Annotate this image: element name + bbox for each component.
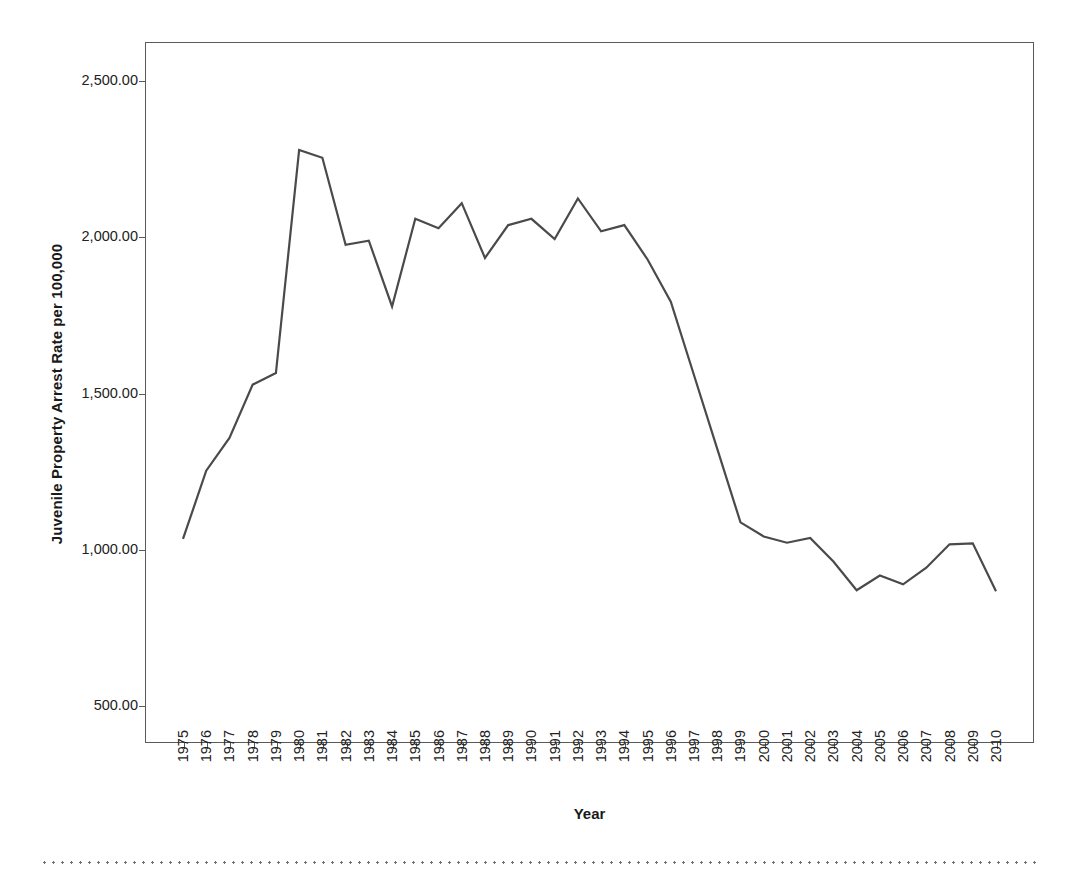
- x-axis-tick-label: 1986: [431, 730, 447, 790]
- y-axis-tick-label: 500.00: [38, 698, 138, 712]
- y-axis-tick-mark: [139, 81, 146, 82]
- x-axis-tick-label: 1997: [686, 730, 702, 790]
- x-axis-tick-label: 1984: [384, 730, 400, 790]
- x-axis-tick-label: 1975: [175, 730, 191, 790]
- x-axis-tick-label: 2000: [756, 730, 772, 790]
- x-axis-tick-label: 1980: [291, 730, 307, 790]
- x-axis-tick-label: 1977: [221, 730, 237, 790]
- x-axis-tick-label: 1981: [314, 730, 330, 790]
- x-axis-title: Year: [145, 805, 1034, 822]
- x-axis-tick-label: 2003: [825, 730, 841, 790]
- x-axis-tick-label-group: 1975197619771978197919801981198219831984…: [145, 743, 1034, 813]
- y-axis-tick-mark: [139, 237, 146, 238]
- plot-area: [145, 42, 1034, 743]
- bottom-dotted-rule: [40, 861, 1042, 864]
- y-axis-tick-label: 1,500.00: [38, 386, 138, 400]
- x-axis-tick-label: 1998: [709, 730, 725, 790]
- x-axis-tick-label: 2005: [872, 730, 888, 790]
- x-axis-tick-label: 2009: [965, 730, 981, 790]
- x-axis-tick-label: 1993: [593, 730, 609, 790]
- x-axis-tick-label: 1985: [407, 730, 423, 790]
- x-axis-tick-label: 1976: [198, 730, 214, 790]
- x-axis-tick-label: 2008: [942, 730, 958, 790]
- x-axis-tick-label: 1992: [570, 730, 586, 790]
- x-axis-tick-label: 1978: [245, 730, 261, 790]
- x-axis-tick-label: 1989: [500, 730, 516, 790]
- chart-figure: Juvenile Property Arrest Rate per 100,00…: [0, 0, 1086, 873]
- x-axis-tick-label: 2004: [849, 730, 865, 790]
- y-axis-tick-label: 2,000.00: [38, 229, 138, 243]
- x-axis-tick-label: 1996: [663, 730, 679, 790]
- x-axis-tick-label: 1982: [338, 730, 354, 790]
- y-axis-tick-mark: [139, 394, 146, 395]
- x-axis-tick-label: 2010: [988, 730, 1004, 790]
- x-axis-tick-label: 1999: [732, 730, 748, 790]
- x-axis-tick-label: 1990: [523, 730, 539, 790]
- x-axis-tick-label: 2007: [918, 730, 934, 790]
- x-axis-tick-label: 2006: [895, 730, 911, 790]
- y-axis-tick-label: 1,000.00: [38, 542, 138, 556]
- x-axis-tick-label: 1987: [454, 730, 470, 790]
- x-axis-tick-label: 2001: [779, 730, 795, 790]
- x-axis-tick-label: 1988: [477, 730, 493, 790]
- y-axis-tick-label: 2,500.00: [38, 73, 138, 87]
- x-axis-tick-label: 1983: [361, 730, 377, 790]
- x-axis-tick-label: 1994: [616, 730, 632, 790]
- y-axis-tick-mark: [139, 550, 146, 551]
- x-axis-tick-label: 1995: [640, 730, 656, 790]
- y-axis-tick-mark: [139, 706, 146, 707]
- x-axis-tick-label: 2002: [802, 730, 818, 790]
- y-axis-tick-label-group: 500.001,000.001,500.002,000.002,500.00: [30, 0, 138, 873]
- x-axis-tick-label: 1991: [547, 730, 563, 790]
- x-axis-tick-label: 1979: [268, 730, 284, 790]
